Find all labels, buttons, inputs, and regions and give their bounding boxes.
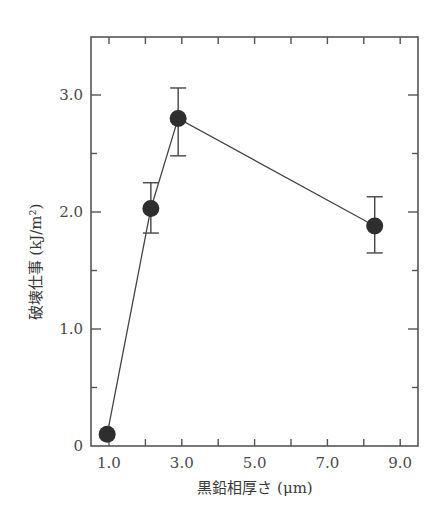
data-point [170,110,187,127]
x-tick-label: 9.0 [388,454,412,472]
x-tick-label: 1.0 [97,454,121,472]
plot-frame [91,37,418,446]
data-point [366,218,383,235]
y-tick-label: 1.0 [59,320,83,338]
axis-ticks [91,37,418,446]
y-axis-label: 破壊仕事 (kJ/m²) [27,204,45,321]
x-tick-labels: 1.03.05.07.09.0 [97,454,412,472]
x-tick-label: 5.0 [243,454,267,472]
data-point [99,426,116,443]
data-point [142,200,159,217]
x-tick-label: 3.0 [170,454,194,472]
x-tick-label: 7.0 [315,454,339,472]
y-tick-labels: 01.02.03.0 [59,86,83,455]
data-series [99,88,384,443]
series-line [107,118,375,434]
y-tick-label: 0 [73,437,83,455]
y-tick-label: 2.0 [59,203,83,221]
plot-border [91,37,418,446]
chart: 1.03.05.07.09.0 01.02.03.0 黒鉛相厚さ (μm) 破壊… [0,0,443,531]
y-tick-label: 3.0 [59,86,83,104]
x-axis-label: 黒鉛相厚さ (μm) [197,479,312,497]
